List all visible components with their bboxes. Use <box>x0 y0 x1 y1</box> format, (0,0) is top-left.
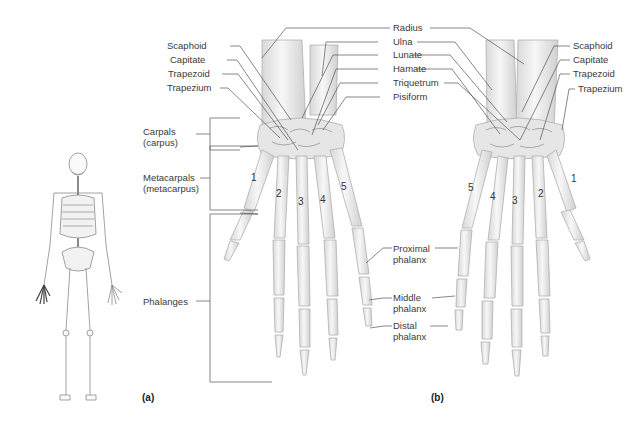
hand-posterior-drawing <box>455 40 590 376</box>
metacarpal-number-3-a: 3 <box>298 196 304 207</box>
label-lunate: Lunate <box>393 49 422 60</box>
label-metacarpals: Metacarpals (metacarpus) <box>143 172 199 194</box>
metacarpal-number-2-b: 2 <box>538 188 544 199</box>
label-ulna: Ulna <box>393 36 413 47</box>
label-pisiform: Pisiform <box>393 91 427 102</box>
label-radius: Radius <box>393 22 423 33</box>
label-trapezoid-b: Trapezoid <box>573 68 615 79</box>
hand-bones-diagram <box>0 0 644 431</box>
metacarpal-number-3-b: 3 <box>512 195 518 206</box>
label-trapezium-a: Trapezium <box>167 82 212 93</box>
label-scaphoid-a: Scaphoid <box>167 40 207 51</box>
label-triquetrum: Triquetrum <box>393 77 439 88</box>
metacarpal-number-5-a: 5 <box>341 181 347 192</box>
panel-label-b: (b) <box>431 392 444 403</box>
label-trapezoid-a: Trapezoid <box>168 68 210 79</box>
full-skeleton-icon <box>36 153 122 400</box>
metacarpal-number-5-b: 5 <box>468 182 474 193</box>
label-proximal-phalanx: Proximal phalanx <box>393 243 430 265</box>
metacarpal-number-4-b: 4 <box>490 191 496 202</box>
label-scaphoid-b: Scaphoid <box>573 40 613 51</box>
label-trapezium-b: Trapezium <box>578 83 623 94</box>
label-middle-phalanx: Middle phalanx <box>393 292 426 314</box>
label-capitate-b: Capitate <box>573 54 608 65</box>
panel-label-a: (a) <box>142 392 154 403</box>
label-capitate-a: Capitate <box>170 54 205 65</box>
metacarpal-number-4-a: 4 <box>320 194 326 205</box>
metacarpal-number-1-b: 1 <box>571 173 577 184</box>
label-hamate: Hamate <box>393 63 426 74</box>
hand-anterior-drawing <box>224 40 372 375</box>
label-carpals: Carpals (carpus) <box>143 126 178 148</box>
metacarpal-number-1-a: 1 <box>251 172 257 183</box>
metacarpal-number-2-a: 2 <box>276 188 282 199</box>
label-phalanges: Phalanges <box>143 296 188 307</box>
label-distal-phalanx: Distal phalanx <box>393 320 426 342</box>
